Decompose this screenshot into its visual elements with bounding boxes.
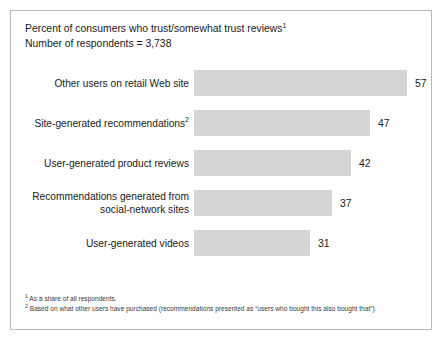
bar-category-text: Other users on retail Web site — [54, 78, 189, 89]
bar-row: Recommendations generated from social-ne… — [11, 183, 433, 223]
bar-value-label-3: 37 — [340, 198, 352, 209]
bar-row: User-generated videos 31 — [11, 223, 433, 263]
bar-category-label: Site-generated recommendations2 — [21, 117, 189, 130]
bar-row: User-generated product reviews 42 — [11, 143, 433, 183]
footnote-1: 1 As a share of all respondents. — [25, 294, 423, 304]
bar-track: 47 — [194, 103, 433, 143]
bar-category-label: Other users on retail Web site — [21, 77, 189, 90]
bar-row: Site-generated recommendations2 47 — [11, 103, 433, 143]
bar-category-text: Recommendations generated from social-ne… — [32, 191, 189, 215]
bar-category-label: User-generated videos — [21, 237, 189, 250]
chart-title-superscript: 1 — [283, 22, 287, 29]
footnote-divider — [25, 289, 419, 290]
bar-track: 42 — [194, 143, 433, 183]
bar-value-label-0: 57 — [415, 78, 427, 89]
bar-value-label-2: 42 — [359, 158, 371, 169]
chart-subtitle: Number of respondents = 3,738 — [25, 36, 415, 51]
chart-plot-area: Other users on retail Web site 57 Site-g… — [11, 63, 433, 285]
bar-category-text: Site-generated recommendations — [34, 118, 185, 129]
bar-category-text: User-generated product reviews — [44, 158, 189, 169]
bar-track: 37 — [194, 183, 433, 223]
bar-category-label: Recommendations generated from social-ne… — [21, 190, 189, 216]
footnote-2-marker: 2 — [25, 303, 28, 309]
bar-category-superscript: 2 — [185, 116, 189, 123]
bar-1 — [194, 110, 370, 136]
bar-0 — [194, 70, 407, 96]
bar-3 — [194, 190, 332, 216]
bar-category-text: User-generated videos — [86, 238, 189, 249]
bar-track: 31 — [194, 223, 433, 263]
bar-value-label-4: 31 — [318, 238, 330, 249]
footnote-1-marker: 1 — [25, 293, 28, 299]
chart-title: Percent of consumers who trust/somewhat … — [25, 21, 415, 36]
bar-2 — [194, 150, 351, 176]
footnote-block: 1 As a share of all respondents. 2 Based… — [25, 294, 423, 314]
chart-title-block: Percent of consumers who trust/somewhat … — [25, 21, 415, 51]
footnote-2: 2 Based on what other users have purchas… — [25, 304, 423, 314]
exhibit-frame: Percent of consumers who trust/somewhat … — [10, 10, 432, 330]
footnote-1-text: As a share of all respondents. — [29, 295, 116, 302]
bar-row: Other users on retail Web site 57 — [11, 63, 433, 103]
bar-4 — [194, 230, 310, 256]
bar-category-label: User-generated product reviews — [21, 157, 189, 170]
bar-track: 57 — [194, 63, 433, 103]
chart-title-text: Percent of consumers who trust/somewhat … — [25, 23, 283, 34]
footnote-2-text: Based on what other users have purchased… — [30, 305, 377, 312]
bar-value-label-1: 47 — [378, 118, 390, 129]
